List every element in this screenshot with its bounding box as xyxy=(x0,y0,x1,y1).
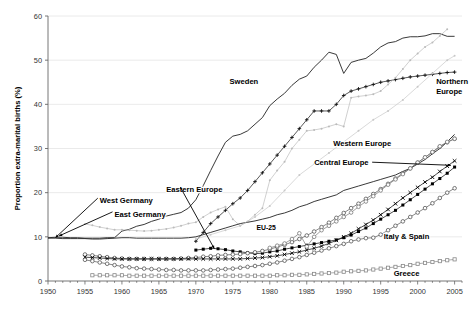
series-label-western-europe: Western Europe xyxy=(333,139,391,148)
y-axis-title: Proportion extra-marital births (%) xyxy=(13,86,22,210)
x-tick-label: 1950 xyxy=(40,287,56,296)
x-tick-label: 1970 xyxy=(188,287,204,296)
y-tick-label: 30 xyxy=(34,144,42,153)
series-label-northern-europe: Europe xyxy=(436,87,462,96)
series-label-central-europe: Central Europe xyxy=(314,158,368,167)
y-tick-label: 50 xyxy=(34,56,42,65)
series-label-east-germany: East Germany xyxy=(115,210,167,219)
series-label-sweden: Sweden xyxy=(230,77,259,86)
x-tick-label: 1990 xyxy=(335,287,351,296)
x-tick-label: 1955 xyxy=(77,287,93,296)
y-tick-label: 60 xyxy=(34,12,42,21)
y-tick-label: 0 xyxy=(38,277,42,286)
series-label-eu-25: EU-25 xyxy=(256,224,275,231)
line-chart: 0102030405060195019551960196519701975198… xyxy=(0,0,470,311)
x-tick-label: 1995 xyxy=(372,287,388,296)
series-label-northern-europe: Northern xyxy=(436,77,468,86)
series-label-eastern-europe: Eastern Europe xyxy=(166,185,222,194)
chart-container: 0102030405060195019551960196519701975198… xyxy=(0,0,470,311)
y-tick-label: 10 xyxy=(34,233,42,242)
y-tick-label: 20 xyxy=(34,188,42,197)
series-label-italy-spain: Italy & Spain xyxy=(384,232,430,241)
x-tick-label: 1985 xyxy=(299,287,315,296)
x-tick-label: 2005 xyxy=(446,287,462,296)
x-tick-label: 2000 xyxy=(409,287,425,296)
x-tick-label: 1965 xyxy=(151,287,167,296)
x-tick-label: 1980 xyxy=(262,287,278,296)
x-tick-label: 1975 xyxy=(225,287,241,296)
x-tick-label: 1960 xyxy=(114,287,130,296)
series-label-greece: Greece xyxy=(394,269,420,278)
series-label-west-germany: West Germany xyxy=(100,196,154,205)
y-tick-label: 40 xyxy=(34,100,42,109)
